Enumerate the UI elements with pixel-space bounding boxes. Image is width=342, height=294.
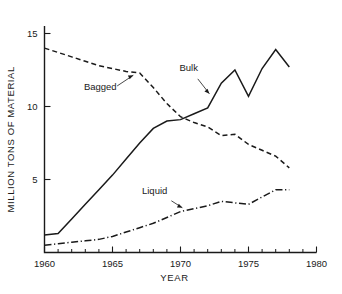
x-tick-label: 1980 — [306, 258, 327, 269]
y-tick-label: 5 — [32, 174, 37, 185]
chart-axes — [45, 26, 317, 253]
series-label-liquid: Liquid — [142, 185, 167, 196]
series-line-bagged — [45, 48, 290, 168]
axis-lines — [45, 26, 317, 253]
chart-axis-labels: 1960196519701975198051015YEARMILLION TON… — [5, 28, 327, 283]
series-label-bagged: Bagged — [84, 81, 117, 92]
x-axis-title: YEAR — [160, 272, 188, 283]
x-tick-label: 1970 — [170, 258, 191, 269]
series-line-bulk — [45, 50, 290, 235]
y-tick-label: 10 — [27, 101, 38, 112]
y-tick-label: 15 — [27, 28, 38, 39]
line-chart: BaggedBulkLiquid 19601965197019751980510… — [0, 0, 342, 294]
y-axis-title: MILLION TONS OF MATERIAL — [5, 66, 16, 212]
arrow-icon — [177, 204, 182, 208]
chart-figure: BaggedBulkLiquid 19601965197019751980510… — [0, 0, 342, 294]
chart-series — [45, 48, 290, 245]
series-line-liquid — [45, 190, 290, 245]
x-tick-label: 1975 — [238, 258, 259, 269]
x-tick-label: 1965 — [102, 258, 123, 269]
arrow-icon — [204, 89, 209, 94]
series-label-bulk: Bulk — [179, 62, 198, 73]
x-tick-label: 1960 — [34, 258, 55, 269]
